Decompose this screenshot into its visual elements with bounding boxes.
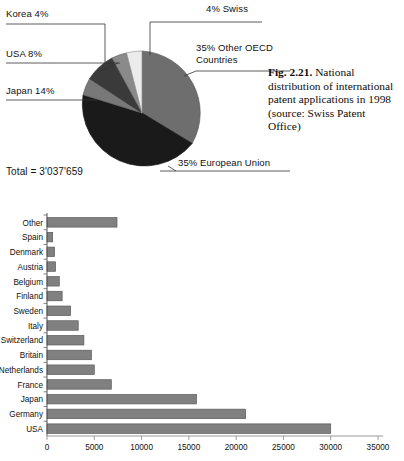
bar-category-label: USA [26,425,43,434]
bar-chart-graphic: OtherSpainDenmarkAustriaBelgiumFinlandSw… [0,205,404,461]
bar-category-label: Britain [20,351,44,360]
x-tick-label: 35000 [367,443,390,452]
pie-label-other-oecd: 35% Other OECD Countries [196,42,273,65]
bar-denmark [47,247,55,257]
bar-finland [47,291,62,301]
bar-italy [47,321,78,331]
bar-category-label: Switzerland [1,336,44,345]
bar-other [47,218,117,228]
bar-category-label: Spain [22,233,43,242]
bar-category-label: Finland [16,292,43,301]
pie-label-european-union: 35% European Union [178,157,270,169]
pie-label-usa: USA 8% [6,48,42,60]
x-tick-label: 0 [45,443,50,452]
bar-belgium [47,277,59,287]
x-tick-label: 20000 [225,443,248,452]
figure-caption-number: Fig. 2.21. [268,66,312,78]
pie-total-label: Total = 3'037'659 [6,166,83,178]
bar-x-ticks: 05000100001500020000250003000035000 [45,436,390,452]
bar-category-label: Japan [21,395,44,404]
figure-caption: Fig. 2.21. National distribution of inte… [268,66,400,134]
bar-japan [47,394,196,404]
bar-usa [47,424,331,434]
pie-label-japan: Japan 14% [6,85,54,97]
bar-category-label: Germany [9,410,44,419]
bar-sweden [47,306,71,316]
bar-switzerland [47,335,84,345]
pie-label-swiss: 4% Swiss [206,3,248,15]
leader-line-eu-2 [168,166,176,171]
x-tick-label: 10000 [130,443,153,452]
bar-category-label: Austria [18,263,44,272]
figure-2-21: Korea 4% USA 8% Japan 14% 4% Swiss 35% O… [0,0,404,461]
bar-category-labels: OtherSpainDenmarkAustriaBelgiumFinlandSw… [0,215,47,434]
bar-chart-block: OtherSpainDenmarkAustriaBelgiumFinlandSw… [0,205,404,461]
bar-category-label: Belgium [13,278,43,287]
bar-category-label: Italy [28,322,44,331]
x-tick-label: 30000 [319,443,342,452]
bar-category-label: Netherlands [0,366,43,375]
bar-category-label: Denmark [10,248,44,257]
bar-spain [47,232,53,242]
bar-rects [47,218,331,434]
bar-category-label: Other [23,219,44,228]
x-tick-label: 5000 [85,443,104,452]
bar-austria [47,262,56,272]
bar-france [47,380,111,390]
bar-britain [47,350,91,360]
bar-netherlands [47,365,94,375]
x-tick-label: 15000 [177,443,200,452]
pie-slices [82,51,200,166]
bar-category-label: France [18,381,44,390]
x-tick-label: 25000 [272,443,295,452]
pie-label-korea: Korea 4% [6,8,49,20]
bar-category-label: Sweden [13,307,43,316]
bar-germany [47,409,246,419]
